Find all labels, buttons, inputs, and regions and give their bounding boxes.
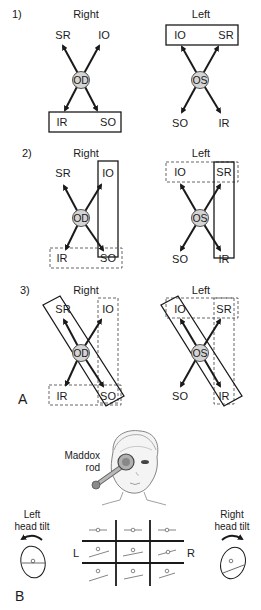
grid-right-label: R [187,547,195,559]
right-eye-diagram: Right OD SR IO IR SO [49,8,121,132]
eye-label: OD [73,347,89,359]
grid-left-label: L [73,547,79,559]
left-eye-diagram: Left OS IO SR SO IR [161,284,242,406]
left-eye-diagram: Left OS IO SR SO IR [166,147,238,265]
right-eye-diagram: Right OD SR IO IR SO [43,284,124,406]
row-1: 1) Right OD SR IO IR SO Left IO SR [12,8,238,132]
muscle-label: SR [55,167,70,179]
muscle-label: SO [100,390,116,402]
left-eye-icon [141,460,149,464]
muscle-label: IR [219,117,230,129]
muscle-label: IR [219,253,230,265]
neck-icon [144,492,166,505]
light-dot [229,559,233,563]
right-eye-diagram: Right OD SR IO IR SO [50,147,122,268]
muscle-label: SR [55,303,70,315]
muscle-label: SR [55,29,70,41]
right-tilt-eye-icon [217,544,250,582]
panel-b: Maddox rod Left head tilt B Right head t… [14,431,249,604]
muscle-label: IO [174,29,186,41]
muscle-label: SO [172,117,188,129]
muscle-label: SR [218,29,233,41]
eye-label: OD [73,74,89,86]
muscle-label: SR [216,166,231,178]
rotate-left-arrow-icon [22,536,42,540]
muscle-label: IO [98,29,110,41]
right-tilt-label-line2: head tilt [214,521,249,532]
neck-icon [102,492,123,505]
light-dot [31,559,35,563]
muscle-label: SO [172,253,188,265]
eye-title: Right [73,147,99,159]
gaze-grid [82,520,184,586]
eye-label: OS [192,212,207,224]
eye-title: Left [192,284,210,296]
muscle-label: SR [216,303,231,315]
muscle-label: IR [57,116,68,128]
eye-title: Left [192,147,210,159]
eye-label: OS [192,347,207,359]
muscle-label: SO [172,390,188,402]
panel-b-label: B [15,588,24,604]
left-tilt-label-line1: Left [24,509,41,520]
maddox-label-line1: Maddox [64,450,100,461]
right-tilt-label-line1: Right [220,509,244,520]
maddox-label-line2: rod [86,462,100,473]
muscle-label: SO [100,116,116,128]
eye-label: OS [192,74,207,86]
row-2: 2) Right OD SR IO IR SO Left OS I [22,147,238,268]
eye-label: OD [73,212,89,224]
muscle-label: IO [174,303,186,315]
row-number: 3) [20,284,30,296]
rotate-right-arrow-icon [222,536,242,540]
muscle-label: IO [174,166,186,178]
eye-title: Right [73,8,99,20]
row-number: 1) [12,8,22,20]
row-3: 3) Right OD SR IO IR SO Left [18,284,242,407]
left-tilt-label-line2: head tilt [14,521,49,532]
muscle-label: IR [57,252,68,264]
diagram-canvas: 1) Right OD SR IO IR SO Left IO SR [0,0,261,610]
left-tilt-eye-icon [18,544,48,580]
muscle-label: IO [102,303,114,315]
muscle-label: IR [57,390,68,402]
muscle-label: IR [219,390,230,402]
left-eye-diagram: Left IO SR OS SO IR [166,8,238,129]
eye-title: Left [192,8,210,20]
eye-title: Right [73,284,99,296]
panel-a-label: A [18,391,28,407]
streak-line [223,565,244,573]
face-illustration [102,431,166,505]
muscle-label: IO [102,167,114,179]
row-number: 2) [22,147,32,159]
muscle-label: SO [100,252,116,264]
